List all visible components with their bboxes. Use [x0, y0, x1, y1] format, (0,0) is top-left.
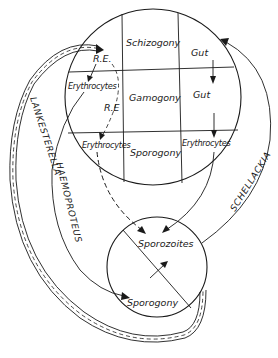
label-schellackia: SCHELLACKIA	[228, 150, 273, 213]
host-circle-labels: Schizogony Gut R.E. Erythrocytes Gamogon…	[68, 37, 231, 158]
life-cycle-diagram: Schizogony Gut R.E. Erythrocytes Gamogon…	[0, 0, 278, 358]
label-lankesterella: LANKESTERELLA	[28, 96, 63, 177]
label-erythrocytes-right: Erythrocytes	[182, 138, 231, 148]
arrowhead-icon	[210, 76, 216, 84]
host-to-vector-arrows	[97, 152, 214, 234]
arrowhead-icon	[99, 132, 105, 140]
arrowhead-icon	[211, 130, 217, 138]
label-erythrocytes-left: Erythrocytes	[82, 140, 131, 150]
label-gut-mid: Gut	[193, 89, 211, 100]
label-re-top: R.E.	[93, 53, 112, 64]
label-re-mid: R.E	[104, 102, 120, 113]
haemoproteus-path: HAEMOPROTEUS	[52, 92, 130, 300]
label-schizogony: Schizogony	[126, 37, 181, 48]
label-sporozoites: Sporozoites	[138, 238, 194, 249]
label-sporogony-vector: Sporogony	[127, 297, 178, 308]
label-gamogony: Gamogony	[129, 92, 181, 103]
arrowhead-icon	[162, 225, 170, 233]
label-gut-top: Gut	[191, 47, 209, 58]
label-sporogony-host: Sporogony	[130, 147, 181, 158]
label-erythrocytes-mid: Erythrocytes	[68, 81, 117, 91]
